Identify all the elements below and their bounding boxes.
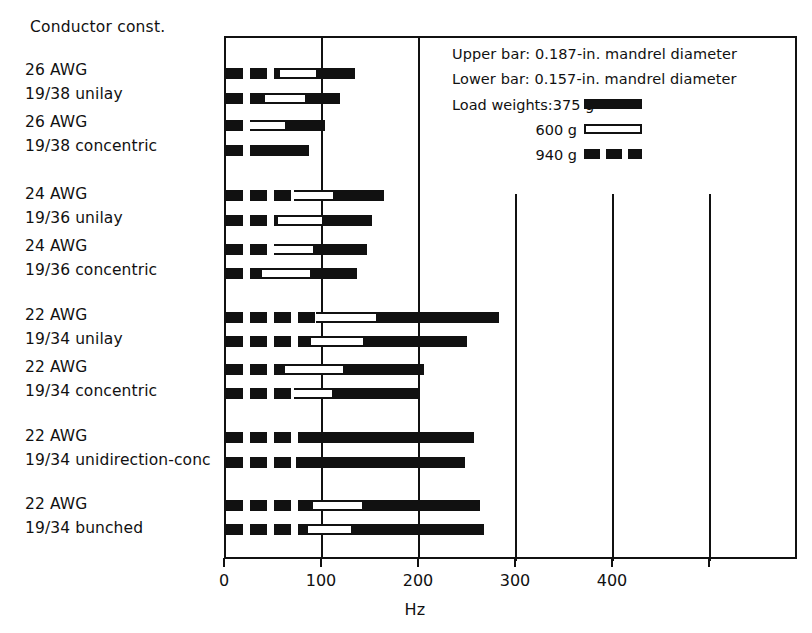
legend-entry: 940 g — [452, 142, 642, 168]
legend-swatch-solid — [584, 99, 642, 109]
bar-segment-940g — [226, 68, 280, 79]
figure-root: Conductor const. 26 AWG19/38 unilay26 AW… — [0, 0, 812, 633]
axis-tick-400 — [611, 558, 613, 567]
category-label-line2: 19/34 unilay — [25, 327, 123, 351]
gridline-500 — [709, 194, 711, 561]
category-label: 22 AWG19/34 bunched — [25, 492, 143, 540]
category-label-line1: 26 AWG — [25, 110, 157, 134]
axis-tick-500 — [708, 558, 710, 567]
axis-tick-300 — [514, 558, 516, 567]
axis-tick-0 — [223, 558, 225, 567]
bar-segment-940g — [226, 145, 250, 156]
category-label-line2: 19/36 concentric — [25, 258, 157, 282]
gridline-400 — [612, 194, 614, 561]
axis-tick-label: 400 — [597, 571, 628, 590]
axis-tick-200 — [417, 558, 419, 567]
legend-swatch-dashed — [584, 149, 642, 159]
category-label-line2: 19/36 unilay — [25, 206, 123, 230]
category-label: 24 AWG19/36 concentric — [25, 234, 157, 282]
legend-lower-bar-note: Lower bar: 0.157-in. mandrel diameter — [452, 67, 737, 92]
bar-segment-940g — [226, 524, 308, 535]
category-label-line2: 19/34 bunched — [25, 516, 143, 540]
bar-segment-940g — [226, 364, 285, 375]
legend-upper-bar-note: Upper bar: 0.187-in. mandrel diameter — [452, 42, 737, 67]
legend-swatch-open — [584, 124, 642, 134]
axis-tick-label: 200 — [403, 571, 434, 590]
category-label-line1: 26 AWG — [25, 58, 123, 82]
category-label-line1: 24 AWG — [25, 182, 123, 206]
axis-tick-label: 0 — [219, 571, 229, 590]
category-label-line2: 19/34 unidirection-conc — [25, 448, 211, 472]
bar-segment-940g — [226, 336, 311, 347]
category-label-line2: 19/34 concentric — [25, 379, 157, 403]
axis-tick-label: 300 — [500, 571, 531, 590]
legend: Upper bar: 0.187-in. mandrel diameter Lo… — [452, 42, 782, 182]
axis-tick-label: 100 — [306, 571, 337, 590]
x-axis-title: Hz — [404, 600, 425, 619]
category-label: 26 AWG19/38 concentric — [25, 110, 157, 158]
legend-entry-value: 600 g — [536, 122, 578, 138]
legend-load-weights-label: Load weights: — [452, 97, 553, 113]
category-label: 22 AWG19/34 unidirection-conc — [25, 424, 211, 472]
legend-entry: 600 g — [452, 117, 642, 143]
bar-segment-940g — [226, 244, 274, 255]
bar-segment-940g — [226, 388, 294, 399]
legend-entry: Load weights:375 g — [452, 92, 642, 118]
bar-segment-940g — [226, 215, 278, 226]
bar-segment-940g — [226, 500, 313, 511]
gridline-200 — [418, 38, 420, 557]
bar-segment-940g — [226, 432, 305, 443]
category-label-line1: 22 AWG — [25, 355, 157, 379]
category-label: 26 AWG19/38 unilay — [25, 58, 123, 106]
gridline-300 — [515, 194, 517, 561]
category-label: 24 AWG19/36 unilay — [25, 182, 123, 230]
legend-entry-label: 600 g — [452, 118, 577, 143]
bar-segment-940g — [226, 190, 294, 201]
category-label-line1: 24 AWG — [25, 234, 157, 258]
category-label: 22 AWG19/34 concentric — [25, 355, 157, 403]
bar-segment-940g — [226, 268, 262, 279]
bar-segment-940g — [226, 312, 316, 323]
legend-entry-label: Load weights:375 g — [452, 93, 577, 118]
category-label-line1: 22 AWG — [25, 424, 211, 448]
legend-entry-label: 940 g — [452, 143, 577, 168]
category-label-line1: 22 AWG — [25, 492, 143, 516]
bar-segment-940g — [226, 93, 265, 104]
bar-segment-940g — [226, 457, 296, 468]
legend-entry-value: 940 g — [536, 147, 578, 163]
category-label-line2: 19/38 concentric — [25, 134, 157, 158]
category-label-line2: 19/38 unilay — [25, 82, 123, 106]
category-label: 22 AWG19/34 unilay — [25, 303, 123, 351]
bar-segment-940g — [226, 120, 250, 131]
axis-tick-100 — [320, 558, 322, 567]
category-label-line1: 22 AWG — [25, 303, 123, 327]
gridline-100 — [321, 38, 323, 557]
category-column-header: Conductor const. — [30, 18, 165, 36]
